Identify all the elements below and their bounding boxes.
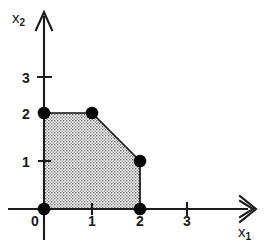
y-tick-label-1: 1 [22, 155, 30, 169]
x-tick-label-0: 0 [31, 214, 39, 228]
x-axis-label-main: x [238, 223, 246, 240]
x-axis-label-subscript: 1 [246, 231, 252, 242]
x-axis-label: x1 [238, 224, 251, 239]
vertex-point-0-2 [38, 107, 51, 120]
y-tick-label-3: 3 [22, 71, 30, 85]
y-axis-label-main: x [12, 9, 20, 26]
x-tick-label-2: 2 [136, 214, 144, 228]
plot-canvas [0, 0, 272, 246]
y-axis-label: x2 [12, 10, 25, 25]
vertex-point-1-2 [86, 107, 99, 120]
plot-figure: 0 1 2 3 1 2 3 x2 x1 [0, 0, 272, 246]
y-axis-label-subscript: 2 [20, 17, 26, 28]
feasible-region-polygon [44, 113, 140, 209]
vertex-point-0-0 [38, 203, 51, 216]
vertex-point-2-1 [134, 155, 147, 168]
x-tick-label-1: 1 [88, 214, 96, 228]
x-tick-label-3: 3 [183, 214, 191, 228]
y-tick-label-2: 2 [22, 107, 30, 121]
